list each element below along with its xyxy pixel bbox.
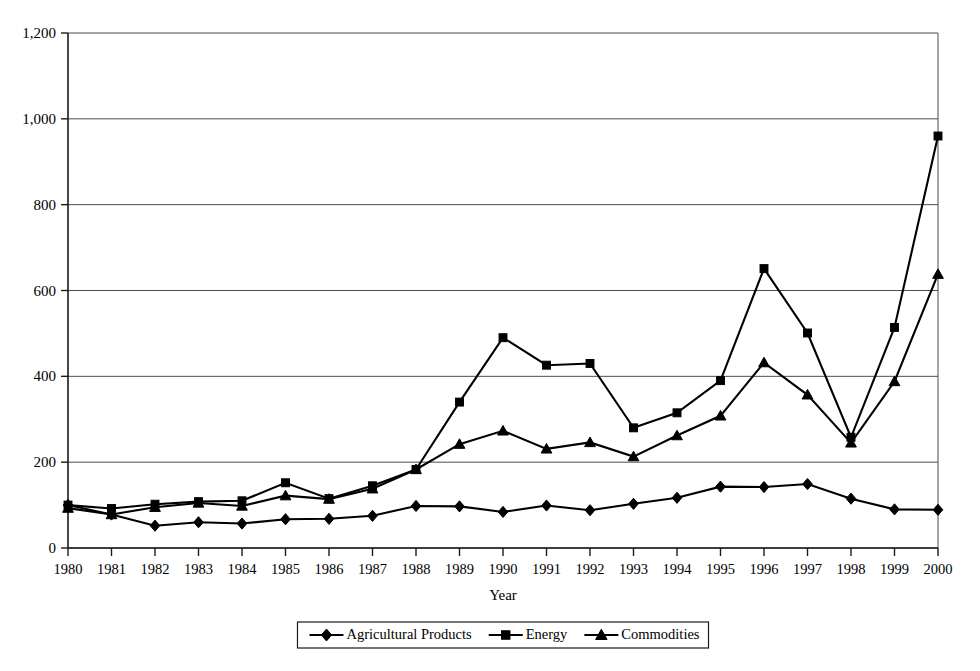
- marker-square: [760, 265, 768, 273]
- marker-diamond: [542, 500, 552, 511]
- marker-diamond: [237, 518, 247, 529]
- line-chart: 02004006008001,0001,200 1980198119821983…: [0, 0, 980, 671]
- series-layer: [63, 132, 944, 531]
- series-commodities: [63, 269, 944, 519]
- marker-diamond: [368, 510, 378, 521]
- x-axis-title: Year: [489, 587, 517, 603]
- marker-diamond: [194, 517, 204, 528]
- legend: Agricultural ProductsEnergyCommodities: [297, 622, 708, 648]
- x-tick-label: 1980: [54, 561, 83, 577]
- marker-square: [502, 631, 510, 639]
- axis-title-layer: Year: [489, 587, 517, 603]
- marker-diamond: [455, 501, 465, 512]
- x-tick-label: 1995: [706, 561, 735, 577]
- x-tick-label: 1997: [793, 561, 822, 577]
- x-tick-label: 1994: [663, 561, 693, 577]
- x-tick-label: 1990: [489, 561, 518, 577]
- legend-entry-label: Agricultural Products: [346, 626, 472, 642]
- y-axis: 02004006008001,0001,200: [22, 25, 68, 556]
- marker-diamond: [150, 520, 160, 531]
- y-tick-label: 200: [34, 454, 57, 470]
- marker-diamond: [933, 504, 943, 515]
- marker-diamond: [890, 504, 900, 515]
- x-tick-label: 1981: [97, 561, 126, 577]
- marker-diamond: [759, 481, 769, 492]
- x-tick-label: 1991: [532, 561, 561, 577]
- x-tick-label: 2000: [924, 561, 953, 577]
- marker-triangle: [759, 357, 770, 367]
- marker-diamond: [803, 478, 813, 489]
- marker-square: [543, 361, 551, 369]
- marker-triangle: [889, 376, 900, 386]
- marker-diamond: [411, 500, 421, 511]
- x-tick-label: 1984: [228, 561, 258, 577]
- marker-diamond: [672, 492, 682, 503]
- marker-square: [804, 329, 812, 337]
- x-tick-label: 1988: [402, 561, 431, 577]
- marker-diamond: [498, 506, 508, 517]
- marker-diamond: [629, 498, 639, 509]
- x-tick-label: 1982: [141, 561, 170, 577]
- y-tick-label: 1,200: [22, 25, 56, 41]
- marker-square: [934, 132, 942, 140]
- marker-diamond: [716, 481, 726, 492]
- marker-square: [630, 424, 638, 432]
- x-tick-label: 1999: [880, 561, 909, 577]
- chart-canvas: 02004006008001,0001,200 1980198119821983…: [0, 0, 980, 671]
- marker-triangle: [498, 425, 509, 435]
- marker-diamond: [281, 514, 291, 525]
- grid-layer: [68, 33, 938, 548]
- x-tick-label: 1993: [619, 561, 648, 577]
- marker-square: [891, 323, 899, 331]
- marker-square: [456, 398, 464, 406]
- marker-square: [586, 360, 594, 368]
- marker-square: [717, 377, 725, 385]
- x-tick-label: 1985: [271, 561, 300, 577]
- marker-diamond: [585, 505, 595, 516]
- marker-triangle: [933, 269, 944, 279]
- marker-square: [673, 409, 681, 417]
- legend-entry-label: Energy: [526, 626, 568, 642]
- x-tick-label: 1987: [358, 561, 387, 577]
- marker-diamond: [324, 513, 334, 524]
- x-tick-label: 1992: [576, 561, 605, 577]
- x-tick-label: 1983: [184, 561, 213, 577]
- legend-entry-label: Commodities: [621, 626, 700, 642]
- y-tick-label: 800: [34, 197, 57, 213]
- x-tick-label: 1986: [315, 561, 344, 577]
- x-tick-label: 1998: [837, 561, 866, 577]
- marker-square: [282, 479, 290, 487]
- marker-square: [499, 334, 507, 342]
- y-tick-label: 600: [34, 283, 57, 299]
- marker-triangle: [585, 437, 596, 447]
- marker-diamond: [846, 493, 856, 504]
- series-energy: [64, 132, 942, 512]
- series-line: [68, 136, 938, 509]
- x-tick-label: 1996: [750, 561, 779, 577]
- y-tick-label: 0: [49, 540, 57, 556]
- x-axis: 1980198119821983198419851986198719881989…: [54, 548, 953, 577]
- x-tick-label: 1989: [445, 561, 474, 577]
- y-tick-label: 1,000: [22, 111, 56, 127]
- y-tick-label: 400: [34, 368, 57, 384]
